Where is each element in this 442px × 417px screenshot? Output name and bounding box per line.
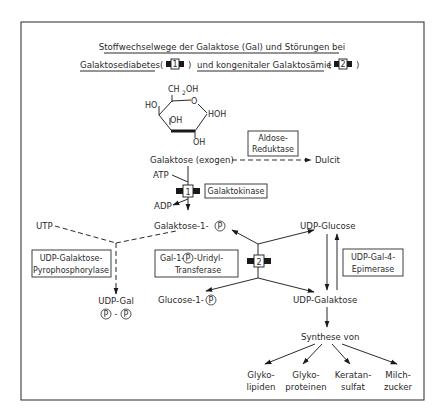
svg-text:Milch-: Milch- bbox=[385, 370, 410, 380]
node-utp: UTP bbox=[36, 221, 53, 231]
title-kongenitale-galaktosaemie: und kongenitaler Galaktosämie bbox=[197, 60, 332, 70]
svg-text:2: 2 bbox=[340, 60, 345, 69]
svg-text:sulfat: sulfat bbox=[341, 382, 366, 392]
node-dulcit: Dulcit bbox=[315, 155, 341, 165]
svg-text:lipiden: lipiden bbox=[247, 382, 276, 392]
svg-text:): ) bbox=[188, 60, 191, 70]
svg-text:Epimerase: Epimerase bbox=[352, 265, 394, 274]
svg-text:zucker: zucker bbox=[384, 382, 413, 392]
svg-text:-Uridyl-: -Uridyl- bbox=[194, 254, 223, 263]
enzyme-aldose-reduktase: Aldose- Reduktase bbox=[248, 131, 298, 156]
svg-text:OH: OH bbox=[186, 85, 198, 94]
enzyme-galaktokinase: Galaktokinase bbox=[205, 184, 267, 198]
svg-text:Glyko-: Glyko- bbox=[292, 370, 319, 380]
svg-text:P: P bbox=[186, 254, 191, 263]
svg-text:proteinen: proteinen bbox=[285, 382, 326, 392]
svg-text:Glucose-1-: Glucose-1- bbox=[158, 295, 204, 305]
title-galaktosediabetes: Galaktosediabetes bbox=[80, 60, 160, 70]
svg-text:HO: HO bbox=[145, 101, 157, 110]
galactose-pathway-diagram: Stoffwechselwege der Galaktose (Gal) und… bbox=[0, 0, 442, 417]
svg-text:): ) bbox=[356, 60, 359, 70]
svg-text:Keratan-: Keratan- bbox=[335, 370, 371, 380]
enzyme-gal-1-p-uridyl-transferase: Gal-1- P -Uridyl- Transferase bbox=[155, 250, 238, 277]
svg-text:(: ( bbox=[328, 60, 331, 70]
svg-text:1: 1 bbox=[172, 60, 177, 69]
node-synthese-von: Synthese von bbox=[301, 332, 359, 342]
svg-text:Transferase: Transferase bbox=[174, 266, 221, 275]
svg-text:P: P bbox=[209, 296, 214, 305]
title-line-1: Stoffwechselwege der Galaktose (Gal) und… bbox=[99, 42, 346, 52]
svg-text:Galaktokinase: Galaktokinase bbox=[208, 187, 265, 196]
svg-text:O: O bbox=[191, 97, 197, 106]
figure-frame bbox=[21, 22, 424, 400]
node-udp-galaktose: UDP-Galaktose bbox=[293, 295, 357, 305]
node-atp: ATP bbox=[153, 170, 169, 180]
svg-text:CH: CH bbox=[168, 85, 180, 94]
enzyme-udp-gal-4-epimerase: UDP-Gal-4- Epimerase bbox=[343, 249, 403, 276]
enzyme-udp-galaktose-pyrophosphorylase: UDP-Galaktose- Pyrophosphorylase bbox=[32, 250, 111, 277]
svg-text:Galaktose-1-: Galaktose-1- bbox=[154, 221, 209, 231]
svg-text:Gal-1-: Gal-1- bbox=[160, 254, 184, 263]
node-galaktose-exogen: Galaktose (exogen) bbox=[150, 155, 234, 165]
svg-text:Pyrophosphorylase: Pyrophosphorylase bbox=[33, 266, 109, 275]
svg-text:Reduktase: Reduktase bbox=[252, 145, 294, 154]
svg-text:Aldose-: Aldose- bbox=[258, 134, 288, 143]
svg-text:P: P bbox=[218, 222, 223, 231]
node-adp: ADP bbox=[154, 201, 172, 211]
svg-text:P: P bbox=[124, 310, 129, 319]
svg-text:OH: OH bbox=[170, 116, 182, 125]
svg-text:P: P bbox=[104, 310, 109, 319]
svg-text:2: 2 bbox=[256, 258, 261, 267]
svg-text:Glyko-: Glyko- bbox=[247, 370, 274, 380]
svg-text:UDP-Galaktose-: UDP-Galaktose- bbox=[40, 254, 103, 263]
svg-text:-: - bbox=[115, 310, 118, 319]
svg-text:OH: OH bbox=[193, 138, 205, 147]
svg-text:HOH: HOH bbox=[208, 110, 226, 119]
svg-text:1: 1 bbox=[185, 188, 190, 197]
svg-text:UDP-Gal: UDP-Gal bbox=[98, 296, 134, 306]
svg-text:(: ( bbox=[160, 60, 163, 70]
node-udp-glucose: UDP-Glucose bbox=[300, 221, 356, 231]
svg-text:UDP-Gal-4-: UDP-Gal-4- bbox=[351, 253, 395, 262]
